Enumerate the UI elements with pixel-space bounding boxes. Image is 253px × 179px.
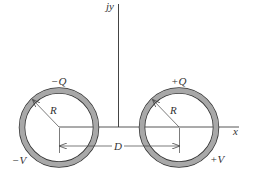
y-axis-label: jy bbox=[104, 0, 114, 12]
right-voltage-label: +V bbox=[210, 153, 225, 165]
left-voltage-label: −V bbox=[12, 154, 27, 166]
x-axis-label: x bbox=[232, 125, 238, 137]
left-conductor bbox=[22, 91, 96, 165]
left-charge-label: −Q bbox=[51, 75, 66, 87]
left-radius-label: R bbox=[49, 104, 57, 116]
two-cylinder-diagram: jy x −Q +Q R R −V +V D bbox=[0, 0, 253, 179]
right-radius-label: R bbox=[169, 104, 177, 116]
right-charge-label: +Q bbox=[171, 75, 186, 87]
right-conductor bbox=[142, 91, 216, 165]
separation-label: D bbox=[113, 140, 122, 152]
